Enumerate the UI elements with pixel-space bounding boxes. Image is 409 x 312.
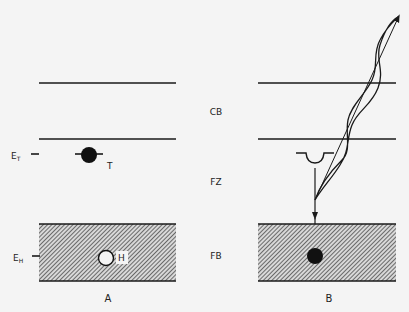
emission-arrow [315, 18, 398, 200]
trapped-electron-icon [81, 147, 97, 163]
panel-b-label: B [326, 293, 333, 304]
hole-label: H [118, 253, 125, 263]
cb-label: CB [210, 107, 222, 117]
recombined-electron-icon [307, 248, 323, 264]
region-labels: CB FZ FB [210, 107, 222, 261]
trap-label: T [106, 161, 113, 171]
fz-label: FZ [210, 177, 221, 187]
panel-a-label: A [105, 293, 112, 304]
empty-trap-icon [296, 153, 334, 163]
band-diagram: ET T EH H A CB FZ FB [0, 0, 409, 312]
fb-label: FB [210, 251, 221, 261]
panel-a: ET T EH H A [11, 83, 176, 304]
eh-label: EH [13, 253, 23, 264]
et-label: ET [11, 151, 21, 162]
filled-band-b [258, 224, 396, 281]
panel-b: B [258, 17, 398, 304]
hole-icon [99, 251, 114, 266]
